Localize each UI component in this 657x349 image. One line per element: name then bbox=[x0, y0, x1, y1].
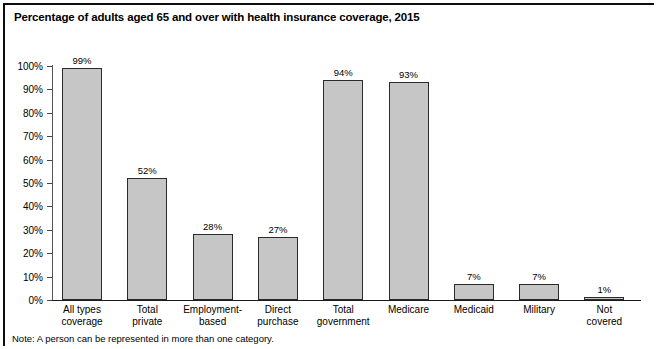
bar-item[interactable]: 7% bbox=[454, 66, 494, 300]
bar-value-label: 7% bbox=[454, 271, 494, 282]
bar-item[interactable]: 28% bbox=[193, 66, 233, 300]
bar[interactable] bbox=[62, 68, 102, 300]
bar[interactable] bbox=[584, 297, 624, 300]
y-axis-tick-mark bbox=[47, 183, 52, 184]
bar-item[interactable]: 99% bbox=[62, 66, 102, 300]
x-axis-line bbox=[52, 300, 641, 301]
figure-border-left bbox=[3, 3, 5, 346]
bar-value-label: 99% bbox=[62, 55, 102, 66]
bar[interactable] bbox=[519, 284, 559, 300]
bar-value-label: 94% bbox=[323, 67, 363, 78]
y-axis-tick-mark bbox=[47, 300, 52, 301]
x-axis-category-label-line: Not bbox=[561, 304, 647, 316]
x-axis-category-label-line: government bbox=[300, 316, 386, 328]
plot-area: 0%10%20%30%40%50%60%70%80%90%100% 99%52%… bbox=[52, 66, 640, 300]
y-axis-tick-label: 30% bbox=[23, 224, 43, 235]
bar-value-label: 28% bbox=[193, 221, 233, 232]
y-axis-tick-mark bbox=[47, 160, 52, 161]
bar[interactable] bbox=[127, 178, 167, 300]
bar-item[interactable]: 94% bbox=[323, 66, 363, 300]
y-axis-tick-mark bbox=[47, 230, 52, 231]
bar-value-label: 27% bbox=[258, 224, 298, 235]
y-axis-tick-label: 90% bbox=[23, 84, 43, 95]
bar-value-label: 1% bbox=[584, 284, 624, 295]
y-axis-tick-mark bbox=[47, 253, 52, 254]
bar[interactable] bbox=[389, 82, 429, 300]
chart-title: Percentage of adults aged 65 and over wi… bbox=[14, 11, 420, 23]
y-axis-tick-mark bbox=[47, 113, 52, 114]
y-axis-tick-label: 10% bbox=[23, 271, 43, 282]
y-axis-tick-mark bbox=[47, 89, 52, 90]
chart-note: Note: A person can be represented in mor… bbox=[12, 333, 274, 344]
bar-item[interactable]: 27% bbox=[258, 66, 298, 300]
bar[interactable] bbox=[193, 234, 233, 300]
y-axis-tick-mark bbox=[47, 66, 52, 67]
y-axis-tick-mark bbox=[47, 206, 52, 207]
y-axis-tick-label: 80% bbox=[23, 107, 43, 118]
y-axis-tick-label: 70% bbox=[23, 131, 43, 142]
y-axis-tick-mark bbox=[47, 136, 52, 137]
bar-item[interactable]: 52% bbox=[127, 66, 167, 300]
figure-border-top bbox=[3, 3, 654, 5]
bar[interactable] bbox=[454, 284, 494, 300]
y-axis-tick-label: 50% bbox=[23, 178, 43, 189]
y-axis-tick-label: 100% bbox=[17, 61, 43, 72]
y-axis-tick-label: 20% bbox=[23, 248, 43, 259]
y-axis-tick-label: 40% bbox=[23, 201, 43, 212]
bar[interactable] bbox=[258, 237, 298, 300]
chart-figure: Percentage of adults aged 65 and over wi… bbox=[0, 0, 657, 349]
y-axis-tick-label: 60% bbox=[23, 154, 43, 165]
x-axis-category-label: Notcovered bbox=[561, 304, 647, 327]
bar-value-label: 93% bbox=[389, 69, 429, 80]
bar-item[interactable]: 93% bbox=[389, 66, 429, 300]
bar-value-label: 52% bbox=[127, 165, 167, 176]
bar[interactable] bbox=[323, 80, 363, 300]
bar-item[interactable]: 1% bbox=[584, 66, 624, 300]
bar-value-label: 7% bbox=[519, 271, 559, 282]
bar-item[interactable]: 7% bbox=[519, 66, 559, 300]
y-axis-tick-mark bbox=[47, 277, 52, 278]
x-axis-category-label-line: covered bbox=[561, 316, 647, 328]
